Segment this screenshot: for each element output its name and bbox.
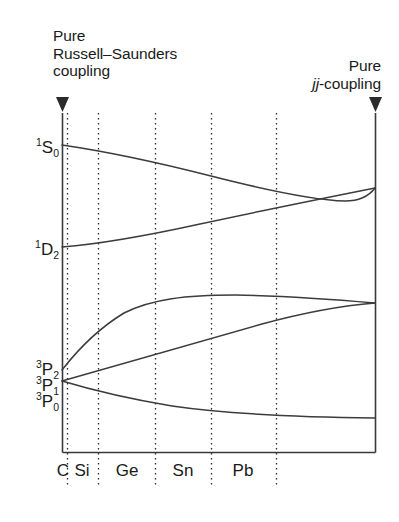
element-label-ge: Ge bbox=[116, 462, 139, 479]
correlation-curves bbox=[62, 145, 375, 418]
right-limit-triangle-marker bbox=[369, 97, 382, 112]
term-1S0-letter: S bbox=[42, 138, 53, 157]
term-symbol-3P0: 3P0 bbox=[36, 388, 59, 416]
curve-1D2 bbox=[62, 188, 375, 247]
term-3P0-j: 0 bbox=[53, 401, 59, 413]
curve-1S0 bbox=[62, 145, 375, 201]
curve-3P2 bbox=[62, 295, 375, 370]
term-1D2-letter: D bbox=[41, 240, 53, 259]
term-3P0-letter: P bbox=[42, 392, 53, 411]
left-limit-triangle-marker bbox=[56, 97, 69, 112]
element-label-pb: Pb bbox=[233, 462, 254, 479]
correlation-plot bbox=[0, 0, 399, 522]
term-symbol-1D2: 1D2 bbox=[35, 236, 59, 264]
term-1D2-j: 2 bbox=[53, 249, 59, 261]
term-symbol-1S0: 1S0 bbox=[36, 134, 59, 162]
element-label-c: C bbox=[57, 462, 69, 479]
coupling-correlation-figure: Pure Russell–Saunders coupling Pure jj-c… bbox=[0, 0, 399, 522]
curve-3P0 bbox=[62, 381, 375, 418]
element-label-sn: Sn bbox=[173, 462, 194, 479]
term-1S0-j: 0 bbox=[53, 147, 59, 159]
gridline-group bbox=[68, 113, 277, 487]
element-label-si: Si bbox=[74, 462, 89, 479]
curve-3P1 bbox=[62, 303, 375, 381]
